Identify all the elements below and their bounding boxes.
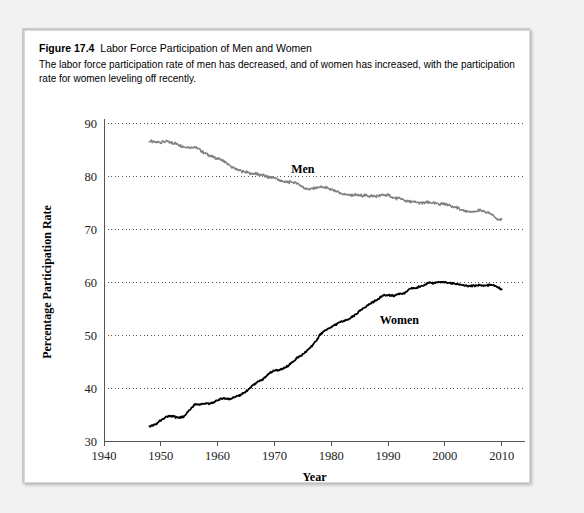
plot-area: 30405060708090 1940195019601970198019902… [25,31,529,482]
x-tick-label: 1940 [92,449,117,463]
y-tick-label: 60 [85,276,98,290]
y-tick-label: 70 [85,223,98,237]
x-tick-labels: 19401950196019701980199020002010 [92,449,515,463]
x-axis-title: Year [303,470,328,482]
x-tick-label: 1980 [319,449,344,463]
x-tick-label: 2010 [489,449,514,463]
y-tick-label: 90 [85,117,98,131]
y-tick-labels: 30405060708090 [85,117,98,449]
series-line-women [149,282,501,427]
axis-ticks [104,441,502,446]
line-chart: 30405060708090 1940195019601970198019902… [25,31,529,482]
figure-page: Figure 17.4 Labor Force Participation of… [0,0,584,513]
y-tick-label: 40 [85,382,98,396]
axis-lines [104,119,525,441]
x-tick-label: 1960 [205,449,230,463]
gridlines [104,123,525,388]
data-series [149,140,501,427]
y-tick-label: 50 [85,329,98,343]
figure-card: Figure 17.4 Labor Force Participation of… [24,30,530,483]
x-tick-label: 2000 [432,449,457,463]
y-axis-title: Percentage Participation Rate [40,204,54,358]
x-tick-label: 1990 [376,449,401,463]
x-tick-label: 1970 [262,449,287,463]
series-line-men [149,140,501,220]
series-label-women: Women [380,313,420,327]
y-tick-label: 30 [85,435,98,449]
y-tick-label: 80 [85,170,98,184]
x-tick-label: 1950 [148,449,173,463]
series-label-men: Men [291,162,315,176]
